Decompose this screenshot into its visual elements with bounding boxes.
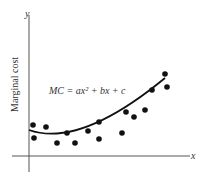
marginal-cost-chart: y x Marginal cost MC = ax² + bx + c <box>0 0 210 184</box>
data-point <box>31 135 37 141</box>
data-point <box>119 130 125 136</box>
data-point <box>142 107 148 113</box>
data-point <box>43 124 49 130</box>
x-axis-symbol: x <box>190 150 196 161</box>
data-point <box>131 114 137 120</box>
data-point <box>30 122 36 128</box>
data-point <box>54 140 60 146</box>
data-point <box>96 136 102 142</box>
data-point <box>149 87 155 93</box>
equation-annotation: MC = ax² + bx + c <box>48 85 126 96</box>
y-axis-label: Marginal cost <box>9 57 20 112</box>
data-points <box>30 71 170 146</box>
y-axis-symbol: y <box>24 8 30 19</box>
data-point <box>64 130 70 136</box>
data-point <box>162 71 168 77</box>
data-point <box>85 128 91 134</box>
data-point <box>72 140 78 146</box>
data-point <box>164 84 170 90</box>
data-point <box>96 119 102 125</box>
data-point <box>123 109 129 115</box>
